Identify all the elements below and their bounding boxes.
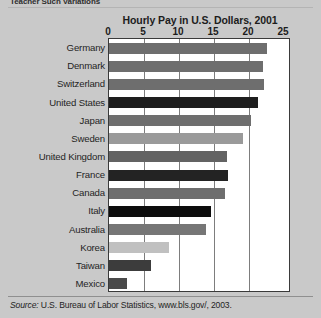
category-label-denmark: Denmark <box>0 60 105 71</box>
category-label-japan: Japan <box>0 115 105 126</box>
category-label-united-states: United States <box>0 97 105 108</box>
bar-italy <box>109 206 211 217</box>
bar-japan <box>109 115 251 126</box>
bottom-divider <box>8 296 313 297</box>
x-tick-label-25: 25 <box>277 26 288 37</box>
source-label: Source: <box>10 300 39 310</box>
category-label-sweden: Sweden <box>0 133 105 144</box>
bar-germany <box>109 43 267 54</box>
bar-row <box>109 93 289 111</box>
bar-row <box>109 202 289 220</box>
bar-row <box>109 275 289 293</box>
bar-row <box>109 166 289 184</box>
bar-denmark <box>109 61 263 72</box>
x-tick-label-10: 10 <box>172 26 183 37</box>
x-tick-label-15: 15 <box>207 26 218 37</box>
source-text: U.S. Bureau of Labor Statistics, www.bls… <box>41 300 232 310</box>
category-label-france: France <box>0 169 105 180</box>
bar-row <box>109 75 289 93</box>
bar-row <box>109 112 289 130</box>
category-label-canada: Canada <box>0 187 105 198</box>
bar-row <box>109 130 289 148</box>
category-label-united-kingdom: United Kingdom <box>0 151 105 162</box>
category-label-italy: Italy <box>0 205 105 216</box>
bar-row <box>109 220 289 238</box>
bar-france <box>109 170 228 181</box>
bar-mexico <box>109 278 127 289</box>
bar-switzerland <box>109 79 264 90</box>
category-label-taiwan: Taiwan <box>0 260 105 271</box>
figure-panel: Teacher Such Variations Hourly Pay in U.… <box>0 0 321 318</box>
chart-title: Hourly Pay in U.S. Dollars, 2001 <box>108 14 292 26</box>
bar-canada <box>109 188 225 199</box>
bar-taiwan <box>109 260 151 271</box>
bar-row <box>109 39 289 57</box>
bar-united-kingdom <box>109 151 227 162</box>
bar-row <box>109 57 289 75</box>
category-label-switzerland: Switzerland <box>0 78 105 89</box>
bar-united-states <box>109 97 258 108</box>
bar-sweden <box>109 133 243 144</box>
x-tick-label-20: 20 <box>242 26 253 37</box>
category-label-mexico: Mexico <box>0 278 105 289</box>
category-label-australia: Australia <box>0 224 105 235</box>
bar-row <box>109 148 289 166</box>
bar-australia <box>109 224 206 235</box>
x-axis-tick-labels: 0510152025 <box>0 26 321 38</box>
top-divider <box>8 7 313 8</box>
plot-area <box>108 38 290 292</box>
bar-row <box>109 239 289 257</box>
category-label-korea: Korea <box>0 242 105 253</box>
x-tick-label-5: 5 <box>140 26 146 37</box>
category-label-germany: Germany <box>0 42 105 53</box>
bar-row <box>109 184 289 202</box>
category-axis-labels: GermanyDenmarkSwitzerlandUnited StatesJa… <box>0 38 105 292</box>
clipped-caption-text: Teacher Such Variations <box>10 0 210 6</box>
bar-korea <box>109 242 169 253</box>
x-tick-label-0: 0 <box>105 26 111 37</box>
bar-row <box>109 257 289 275</box>
source-note: Source: U.S. Bureau of Labor Statistics,… <box>10 300 232 310</box>
